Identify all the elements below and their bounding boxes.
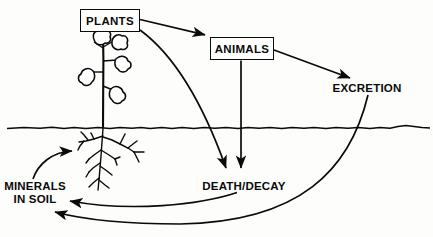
edge-plants-to-animals <box>140 20 205 35</box>
soil-surface-line <box>7 125 430 128</box>
node-minerals-line-2: IN SOIL <box>14 193 57 205</box>
plant-illustration <box>78 28 131 129</box>
edge-minerals-to-roots <box>33 151 72 179</box>
node-death-decay-label: DEATH/DECAY <box>202 180 285 192</box>
node-minerals-in-soil[interactable]: MINERALS IN SOIL <box>4 180 66 205</box>
node-excretion-label: EXCRETION <box>333 82 402 94</box>
node-plants[interactable]: PLANTS <box>80 9 140 32</box>
diagram-canvas: PLANTS ANIMALS EXCRETION DEATH/DECAY MIN… <box>0 0 433 237</box>
node-animals[interactable]: ANIMALS <box>210 37 274 60</box>
node-minerals-line-1: MINERALS <box>4 180 66 192</box>
node-plants-label: PLANTS <box>86 15 134 27</box>
node-animals-label: ANIMALS <box>215 43 270 55</box>
edge-animals-to-excretion <box>274 50 350 78</box>
plant-roots <box>78 129 144 190</box>
edge-death-to-minerals <box>70 193 237 207</box>
node-death-decay[interactable]: DEATH/DECAY <box>199 180 289 193</box>
node-excretion[interactable]: EXCRETION <box>330 82 404 95</box>
